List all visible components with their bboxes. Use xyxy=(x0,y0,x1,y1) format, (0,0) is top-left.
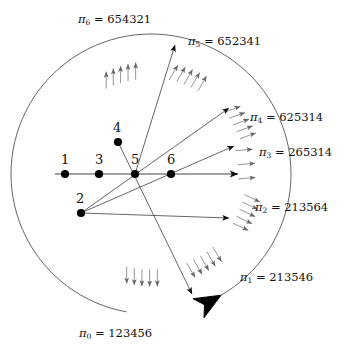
point-p2[interactable] xyxy=(77,209,85,217)
field-arrow xyxy=(177,67,186,82)
ray-ray-e xyxy=(118,142,192,294)
field-arrow xyxy=(238,177,255,178)
diagram-canvas: 123456π0 = 123456π1 = 213546π2 = 213564π… xyxy=(0,0,348,350)
field-arrow xyxy=(229,113,245,119)
arrow-clusters-group xyxy=(106,63,260,287)
point-label-p4: 4 xyxy=(113,121,121,134)
sweep-arrowhead xyxy=(193,295,221,318)
point-p1[interactable] xyxy=(61,170,69,178)
field-arrow xyxy=(235,149,252,150)
field-arrow xyxy=(184,70,193,85)
permutation-label-pi3: π3 = 265314 xyxy=(259,147,332,160)
field-arrow xyxy=(200,256,209,271)
field-arrow xyxy=(187,263,196,278)
point-p4[interactable] xyxy=(114,138,122,146)
point-p5[interactable] xyxy=(131,170,139,178)
point-label-p3: 3 xyxy=(95,153,103,166)
field-arrow xyxy=(194,260,203,275)
field-arrow xyxy=(240,209,255,216)
field-arrow xyxy=(213,247,222,262)
permutation-label-pi5: π5 = 652341 xyxy=(188,36,261,49)
permutation-label-pi0: π0 = 123456 xyxy=(79,328,152,341)
field-arrow xyxy=(240,133,256,139)
point-label-p5: 5 xyxy=(131,153,139,166)
point-label-p2: 2 xyxy=(76,192,84,205)
field-arrow xyxy=(233,223,248,230)
outer-arc xyxy=(11,34,291,312)
rays-group xyxy=(81,45,234,294)
point-label-p1: 1 xyxy=(61,153,69,166)
field-arrow xyxy=(237,216,252,223)
field-arrow xyxy=(169,65,178,80)
point-p6[interactable] xyxy=(167,170,175,178)
point-label-p6: 6 xyxy=(167,153,175,166)
field-arrow xyxy=(233,119,249,125)
field-arrow xyxy=(191,73,200,88)
field-arrow xyxy=(198,76,207,91)
diagram-svg xyxy=(0,0,348,350)
field-arrow xyxy=(237,126,253,132)
permutation-label-pi1: π1 = 213546 xyxy=(240,272,313,285)
field-arrow xyxy=(238,163,255,164)
permutation-label-pi4: π4 = 625314 xyxy=(250,112,323,125)
field-arrow xyxy=(207,252,216,267)
point-p3[interactable] xyxy=(95,170,103,178)
permutation-label-pi6: π6 = 654321 xyxy=(78,14,151,27)
permutation-label-pi2: π2 = 213564 xyxy=(255,202,328,215)
ray-ray-c xyxy=(81,146,234,213)
